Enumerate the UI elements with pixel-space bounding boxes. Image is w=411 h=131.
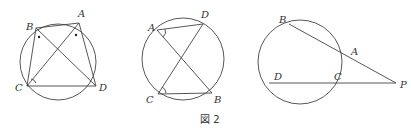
label-D: D [98,82,107,93]
secant-PAB [289,24,396,83]
angle-arc-A [163,29,166,37]
figure-middle: A D C B 図 2 [142,9,224,125]
label-A: A [350,46,358,57]
diagonal-BD [36,28,96,86]
figure-right: B A D C P [258,14,407,104]
angle-arc-C [162,87,166,93]
label-B: B [25,21,33,32]
label-B: B [213,94,221,105]
label-C: C [146,94,154,105]
figure-2-diagram: B A C D A D C B 図 2 B A D C P [0,0,411,131]
label-P: P [399,79,407,90]
angle-mark-B [38,36,40,38]
angle-mark-A [75,34,77,36]
label-A: A [77,8,85,19]
label-D: D [273,71,282,82]
chord-AD [157,24,203,30]
label-B: B [278,14,286,25]
label-C: C [15,82,23,93]
circle-left [20,24,96,100]
label-D: D [200,9,209,20]
circle-right [258,20,342,104]
label-C: C [334,71,342,82]
label-A: A [147,22,155,33]
figure-caption: 図 2 [200,114,220,125]
figure-left: B A C D [15,8,107,100]
